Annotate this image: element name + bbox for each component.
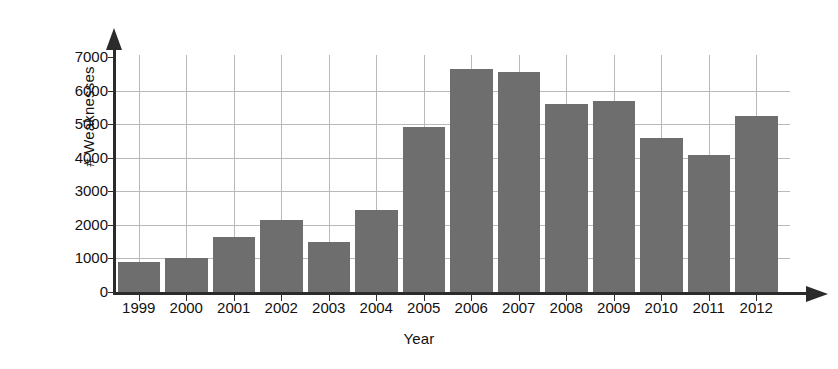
- y-tick-label: 3000: [50, 183, 108, 198]
- bar: [450, 69, 493, 292]
- gridline: [186, 55, 187, 292]
- x-tick-mark: [281, 295, 282, 301]
- bar: [165, 258, 208, 292]
- x-tick-mark: [234, 295, 235, 301]
- x-tick-mark: [424, 295, 425, 301]
- y-tick-mark: [108, 258, 115, 259]
- y-tick-mark: [108, 292, 115, 293]
- bar-chart: # Weaknesses 010002000300040005000600070…: [0, 0, 838, 369]
- bar: [545, 104, 588, 292]
- bar: [735, 116, 778, 292]
- bar: [498, 72, 541, 292]
- x-tick-mark: [661, 295, 662, 301]
- x-axis-arrow-icon: [806, 286, 828, 302]
- bar: [308, 242, 351, 292]
- y-tick-mark: [108, 158, 115, 159]
- y-tick-mark: [108, 91, 115, 92]
- x-tick-mark: [756, 295, 757, 301]
- x-tick-mark: [376, 295, 377, 301]
- bar: [118, 262, 161, 292]
- y-tick-mark: [108, 225, 115, 226]
- y-tick-label: 2000: [50, 217, 108, 232]
- y-tick-mark: [108, 57, 115, 58]
- x-tick-mark: [614, 295, 615, 301]
- x-tick-mark: [709, 295, 710, 301]
- y-axis-tick-labels: 01000200030004000500060007000: [40, 0, 108, 369]
- bar: [355, 210, 398, 292]
- y-axis-arrow-icon: [106, 28, 122, 50]
- x-axis-title: Year: [0, 330, 838, 347]
- y-tick-label: 5000: [50, 116, 108, 131]
- y-tick-label: 1000: [50, 250, 108, 265]
- y-tick-mark: [108, 124, 115, 125]
- y-tick-label: 0: [50, 284, 108, 299]
- y-axis-line: [113, 48, 116, 294]
- y-tick-label: 7000: [50, 49, 108, 64]
- x-tick-mark: [566, 295, 567, 301]
- bar: [640, 138, 683, 292]
- y-tick-mark: [108, 191, 115, 192]
- y-tick-label: 4000: [50, 150, 108, 165]
- x-tick-label: 2012: [728, 300, 784, 315]
- bar: [593, 101, 636, 292]
- bar: [213, 237, 256, 292]
- bar: [260, 220, 303, 292]
- bar: [688, 155, 731, 292]
- gridline: [139, 55, 140, 292]
- x-tick-mark: [186, 295, 187, 301]
- x-tick-mark: [519, 295, 520, 301]
- x-tick-mark: [471, 295, 472, 301]
- x-tick-mark: [139, 295, 140, 301]
- x-tick-mark: [329, 295, 330, 301]
- bar: [403, 127, 446, 292]
- y-tick-label: 6000: [50, 83, 108, 98]
- x-axis-line: [113, 292, 806, 295]
